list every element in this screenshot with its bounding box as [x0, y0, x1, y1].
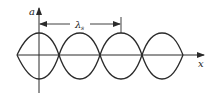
standing-wave-diagram: a x λ s	[0, 0, 216, 100]
wavelength-subscript: s	[81, 24, 84, 31]
lower-envelope-curve	[17, 55, 183, 79]
x-axis-label: x	[198, 58, 204, 69]
diagram-svg: a x λ s	[0, 0, 216, 100]
upper-envelope-curve	[17, 33, 183, 55]
y-axis-label: a	[29, 6, 35, 17]
